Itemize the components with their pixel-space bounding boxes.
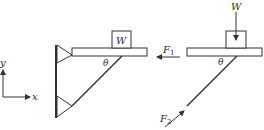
statics-diagram: y x W θ F1 W θ F2 <box>0 0 264 130</box>
weight-label: W <box>231 1 242 12</box>
free-body-diagram: F1 W θ F2 <box>157 1 262 127</box>
brace-rod <box>72 56 122 106</box>
wall-bracket-figure: W θ <box>56 31 147 118</box>
block-w-label: W <box>116 35 127 46</box>
lower-pin-support <box>57 96 72 117</box>
coordinate-axes: y x <box>0 57 38 102</box>
y-axis-label: y <box>0 57 6 68</box>
force-f1-label: F1 <box>162 44 174 57</box>
force-f2-label: F2 <box>159 113 171 126</box>
x-axis-label: x <box>32 91 38 102</box>
rod-fbd <box>187 56 237 106</box>
beam-fbd <box>187 48 262 56</box>
theta-label-left: θ <box>103 58 109 68</box>
theta-label-right: θ <box>218 57 224 67</box>
upper-pin-support <box>57 45 72 63</box>
beam <box>72 48 147 56</box>
